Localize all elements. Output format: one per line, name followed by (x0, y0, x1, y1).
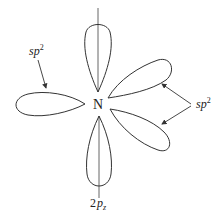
arrow-sp2-lower-right (162, 106, 191, 124)
pz-orbital-label: 2pz (90, 196, 107, 212)
sp2-lower-right-lobe (110, 109, 170, 151)
sp2-left-label: sp2 (29, 43, 44, 58)
sp2-upper-right-lobe (108, 59, 172, 98)
center-atom-label: N (93, 97, 103, 112)
sp2-right-label: sp2 (196, 96, 211, 111)
arrow-sp2-left (38, 60, 46, 88)
orbital-diagram: N sp2 sp2 2pz (0, 0, 221, 214)
arrow-sp2-upper-right (162, 84, 191, 104)
sp2-left-lobe (16, 92, 85, 115)
